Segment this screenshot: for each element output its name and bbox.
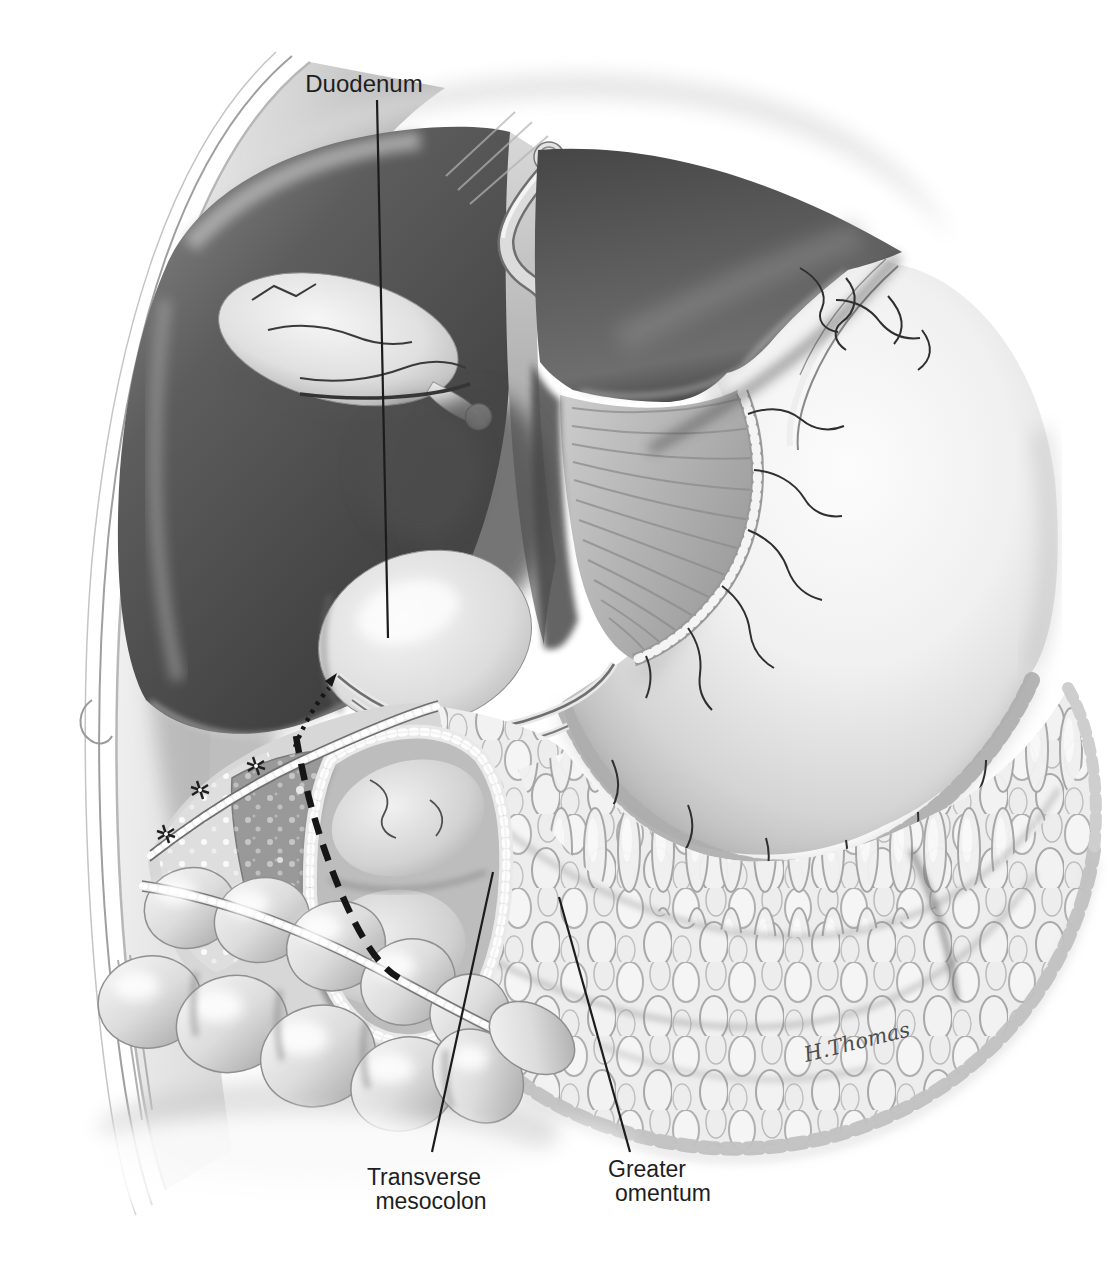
label-transverse-mesocolon-line1: Transverse (367, 1164, 481, 1190)
label-greater-omentum-line1: Greater (608, 1156, 686, 1182)
illustration-page: Duodenum Transverse mesocolon Greater om… (0, 0, 1118, 1278)
subhepatic-shadow-2 (360, 400, 480, 540)
label-duodenum: Duodenum (305, 70, 422, 97)
anatomy-figure: Duodenum Transverse mesocolon Greater om… (0, 0, 1118, 1278)
label-greater-omentum-line2: omentum (615, 1180, 711, 1206)
label-transverse-mesocolon-line2: mesocolon (375, 1188, 486, 1214)
